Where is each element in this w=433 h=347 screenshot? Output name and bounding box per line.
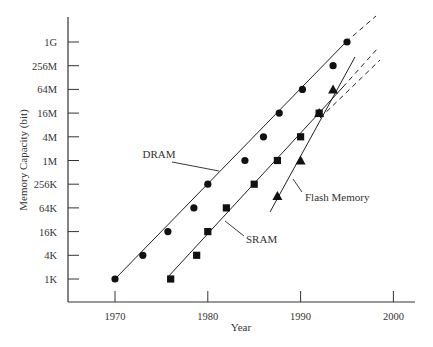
dram-point	[329, 62, 336, 69]
dram-label: DRAM	[142, 148, 175, 160]
dram-point	[343, 38, 350, 45]
sram-point	[167, 275, 174, 282]
y-axis-title: Memory Capacity (bit)	[17, 109, 30, 211]
dram-trend-line	[115, 42, 346, 279]
flash-point	[296, 156, 306, 165]
sram-point	[193, 252, 200, 259]
dram-point	[111, 275, 118, 282]
dram-point	[139, 252, 146, 259]
dram-point	[299, 86, 306, 93]
y-tick-label: 1M	[42, 156, 57, 167]
y-tick-label: 64M	[37, 84, 58, 95]
sram-point	[223, 204, 230, 211]
x-tick-label: 1990	[290, 311, 311, 322]
y-tick-label: 16M	[37, 108, 58, 119]
sram-point	[251, 181, 258, 188]
y-tick-label: 1K	[44, 274, 57, 285]
y-tick-label: 64K	[39, 203, 58, 214]
y-tick-label: 4M	[42, 132, 57, 143]
x-tick-label: 1980	[197, 311, 218, 322]
flash-memory-label: Flash Memory	[305, 191, 370, 203]
y-tick-label: 256M	[32, 61, 58, 72]
y-tick-label: 1G	[44, 37, 57, 48]
dram-point	[204, 181, 211, 188]
sram-point	[297, 133, 304, 140]
dram-point	[276, 110, 283, 117]
dram-leader-line	[172, 162, 219, 171]
x-axis-title: Year	[231, 321, 252, 333]
flash-leader-line	[293, 179, 302, 192]
flash-trend-line	[270, 57, 355, 212]
dram-point	[190, 204, 197, 211]
dram-point	[260, 133, 267, 140]
x-tick-label: 2000	[383, 311, 404, 322]
dram-point	[241, 157, 248, 164]
dram-trend-extrapolation	[346, 16, 376, 42]
y-tick-label: 4K	[44, 250, 57, 261]
sram-point	[274, 157, 281, 164]
dram-point	[164, 228, 171, 235]
memory-capacity-chart: 1K4K16K64K256K1M4M16M64M256M1G1970198019…	[0, 0, 433, 347]
sram-label: SRAM	[246, 233, 277, 245]
x-tick-label: 1970	[105, 311, 126, 322]
series-labels: DRAMSRAMFlash Memory	[142, 148, 369, 245]
y-tick-label: 256K	[34, 179, 58, 190]
y-tick-label: 16K	[39, 227, 58, 238]
sram-leader-line	[225, 221, 244, 236]
sram-point	[204, 228, 211, 235]
flash-point	[328, 84, 338, 93]
flash-trend-extrapolation	[320, 60, 380, 118]
